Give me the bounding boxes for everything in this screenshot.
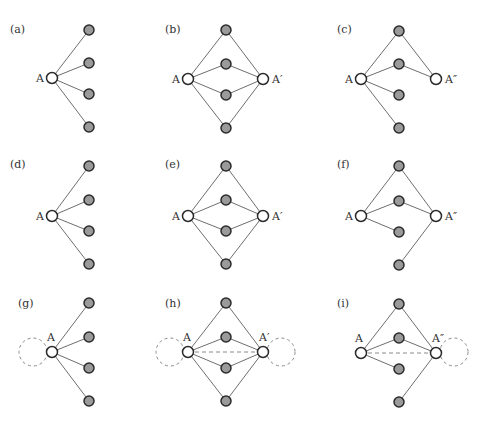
node-label: A″: [444, 73, 457, 86]
filled-node: [84, 298, 94, 308]
filled-node: [394, 299, 404, 309]
graph-panels-svg: A(a)AA′(b)AA″(c)A(d)AA′(e)AA″(f)A(g)AA′(…: [0, 0, 486, 426]
open-node: [183, 211, 194, 222]
node-label: A: [35, 72, 45, 85]
filled-node: [84, 58, 94, 68]
figure-caption-cropped: [18, 418, 418, 426]
open-node: [356, 211, 367, 222]
filled-node: [394, 364, 404, 374]
panel-g: A(g): [18, 297, 94, 406]
open-node: [47, 73, 58, 84]
panel-label: (g): [18, 297, 34, 310]
filled-node: [221, 195, 231, 205]
edge: [52, 352, 89, 401]
panel-i: AA″(i): [337, 297, 468, 407]
filled-node: [394, 397, 404, 407]
filled-node: [84, 226, 94, 236]
panel-a: A(a): [10, 23, 94, 132]
filled-node: [394, 90, 404, 100]
panel-e: AA′(e): [165, 158, 283, 269]
node-label: A: [344, 210, 354, 223]
open-node: [183, 347, 194, 358]
filled-node: [84, 25, 94, 35]
filled-node: [221, 298, 231, 308]
open-node: [47, 211, 58, 222]
panel-d: A(d): [10, 158, 94, 269]
panel-label: (i): [337, 297, 349, 310]
self-loop-dashed: [440, 338, 468, 366]
open-node: [258, 211, 269, 222]
node-label: A″: [444, 210, 457, 223]
filled-node: [394, 260, 404, 270]
panel-b: AA′(b): [165, 23, 283, 133]
filled-node: [221, 25, 231, 35]
open-node: [356, 74, 367, 85]
panel-label: (e): [165, 158, 180, 171]
filled-node: [221, 259, 231, 269]
filled-node: [221, 226, 231, 236]
open-node: [431, 211, 442, 222]
self-loop-dashed: [19, 338, 47, 366]
filled-node: [84, 195, 94, 205]
filled-node: [394, 26, 404, 36]
edge: [226, 79, 263, 128]
panel-label: (h): [165, 297, 181, 310]
open-node: [47, 347, 58, 358]
filled-node: [84, 363, 94, 373]
filled-node: [84, 122, 94, 132]
open-node: [356, 348, 367, 359]
filled-node: [394, 196, 404, 206]
open-node: [258, 347, 269, 358]
node-label: A: [46, 331, 56, 344]
filled-node: [394, 333, 404, 343]
open-node: [258, 74, 269, 85]
self-loop-dashed: [267, 338, 295, 366]
self-loop-dashed: [156, 338, 184, 366]
node-label: A′: [258, 331, 270, 344]
filled-node: [394, 227, 404, 237]
filled-node: [84, 332, 94, 342]
filled-node: [84, 161, 94, 171]
panel-label: (b): [165, 23, 181, 36]
node-label: A: [171, 73, 181, 86]
edge: [399, 353, 436, 402]
filled-node: [221, 332, 231, 342]
node-label: A′: [271, 73, 283, 86]
panel-h: AA′(h): [156, 297, 295, 406]
edge: [361, 79, 399, 128]
node-label: A″: [431, 332, 444, 345]
filled-node: [394, 161, 404, 171]
panel-f: AA″(f): [337, 158, 457, 270]
node-label: A′: [271, 210, 283, 223]
panel-label: (a): [10, 23, 25, 36]
filled-node: [221, 90, 231, 100]
panel-label: (c): [337, 23, 352, 36]
filled-node: [84, 259, 94, 269]
filled-node: [394, 123, 404, 133]
edge: [188, 352, 226, 401]
open-node: [431, 74, 442, 85]
node-label: A: [344, 73, 354, 86]
node-label: A: [35, 210, 45, 223]
filled-node: [221, 59, 231, 69]
graph-figure: A(a)AA′(b)AA″(c)A(d)AA′(e)AA″(f)A(g)AA′(…: [0, 0, 486, 426]
edge: [399, 216, 436, 265]
open-node: [431, 348, 442, 359]
node-label: A: [171, 210, 181, 223]
filled-node: [394, 59, 404, 69]
edge: [226, 352, 263, 401]
panel-label: (f): [337, 158, 350, 171]
filled-node: [221, 123, 231, 133]
filled-node: [221, 161, 231, 171]
node-label: A: [354, 332, 364, 345]
filled-node: [221, 363, 231, 373]
filled-node: [84, 396, 94, 406]
panel-label: (d): [10, 158, 26, 171]
node-label: A: [182, 331, 192, 344]
filled-node: [221, 396, 231, 406]
edge: [52, 78, 89, 127]
open-node: [183, 74, 194, 85]
panel-c: AA″(c): [337, 23, 457, 133]
filled-node: [84, 89, 94, 99]
edge: [188, 79, 226, 128]
